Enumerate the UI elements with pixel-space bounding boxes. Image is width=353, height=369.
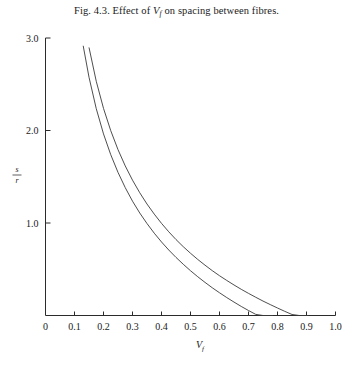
x-axis-tick-label: 0.9 bbox=[300, 321, 313, 332]
x-axis-tick-label: 0.3 bbox=[126, 321, 139, 332]
y-axis-tick-label: 3.0 bbox=[26, 33, 39, 44]
y-axis-title: s r bbox=[13, 165, 22, 185]
y-axis-tick-labels: 1.02.03.0 bbox=[26, 33, 39, 229]
data-curve bbox=[83, 46, 273, 316]
y-axis-tick-label: 2.0 bbox=[26, 125, 39, 136]
x-axis-tick-label: 0 bbox=[43, 321, 48, 332]
x-axis-title: Vf bbox=[196, 339, 205, 353]
x-axis-tick-label: 0.4 bbox=[155, 321, 168, 332]
y-axis-title-numerator: s bbox=[15, 165, 18, 174]
y-axis-title-denominator: r bbox=[15, 176, 19, 185]
x-axis-tick-labels: 00.10.20.30.40.50.60.70.80.91.0 bbox=[43, 321, 342, 332]
x-axis-tick-label: 0.7 bbox=[242, 321, 255, 332]
x-axis-tick-label: 0.6 bbox=[213, 321, 226, 332]
curve-group bbox=[83, 46, 308, 316]
x-axis-tick-label: 0.1 bbox=[68, 321, 81, 332]
x-axis-tick-label: 0.2 bbox=[97, 321, 110, 332]
x-axis-tick-label: 0.5 bbox=[184, 321, 197, 332]
figure-container: Fig. 4.3. Effect of Vf on spacing betwee… bbox=[0, 0, 353, 369]
y-axis-ticks bbox=[46, 38, 51, 223]
x-axis-tick-label: 0.8 bbox=[271, 321, 284, 332]
axes-group bbox=[46, 38, 336, 316]
plot-svg: 00.10.20.30.40.50.60.70.80.91.0 1.02.03.… bbox=[0, 0, 353, 369]
x-axis-tick-label: 1.0 bbox=[329, 321, 342, 332]
y-axis-tick-label: 1.0 bbox=[26, 218, 39, 229]
